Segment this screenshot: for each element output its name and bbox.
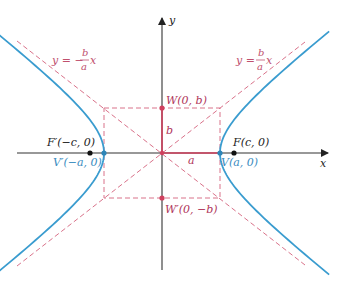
svg-text:a: a (257, 61, 263, 72)
covertex-bottom-label: W′(0, −b) (165, 203, 218, 216)
vertex-left-point (101, 150, 106, 155)
hyperbola-diagram: y x F(c, 0) F′(−c, 0) V(a, 0) V′(−a, 0) … (0, 0, 340, 285)
segment-b-label: b (166, 124, 173, 137)
svg-text:x: x (266, 54, 273, 67)
vertex-left-label: V′(−a, 0) (53, 156, 102, 169)
focus-left-point (87, 150, 92, 155)
covertex-bottom-point (159, 195, 164, 200)
svg-text:y = −: y = − (51, 54, 84, 67)
focus-left-label: F′(−c, 0) (46, 136, 95, 149)
vertex-right-label: V(a, 0) (221, 156, 258, 169)
focus-right-point (231, 150, 236, 155)
asymptote-negative-equation: y = − b a x (51, 47, 97, 72)
svg-text:x: x (90, 54, 97, 67)
segment-a-label: a (188, 154, 195, 167)
vertex-right-point (217, 150, 222, 155)
svg-text:b: b (258, 47, 264, 58)
asymptote-positive-equation: y = b a x (235, 47, 273, 72)
focus-right-label: F(c, 0) (232, 136, 269, 149)
origin-point (160, 151, 164, 155)
svg-text:y =: y = (235, 54, 255, 67)
svg-text:a: a (81, 61, 87, 72)
svg-text:b: b (82, 47, 88, 58)
x-axis-label: x (320, 157, 327, 170)
covertex-top-point (159, 105, 164, 110)
y-axis-label: y (168, 14, 176, 27)
covertex-top-label: W(0, b) (166, 94, 207, 107)
